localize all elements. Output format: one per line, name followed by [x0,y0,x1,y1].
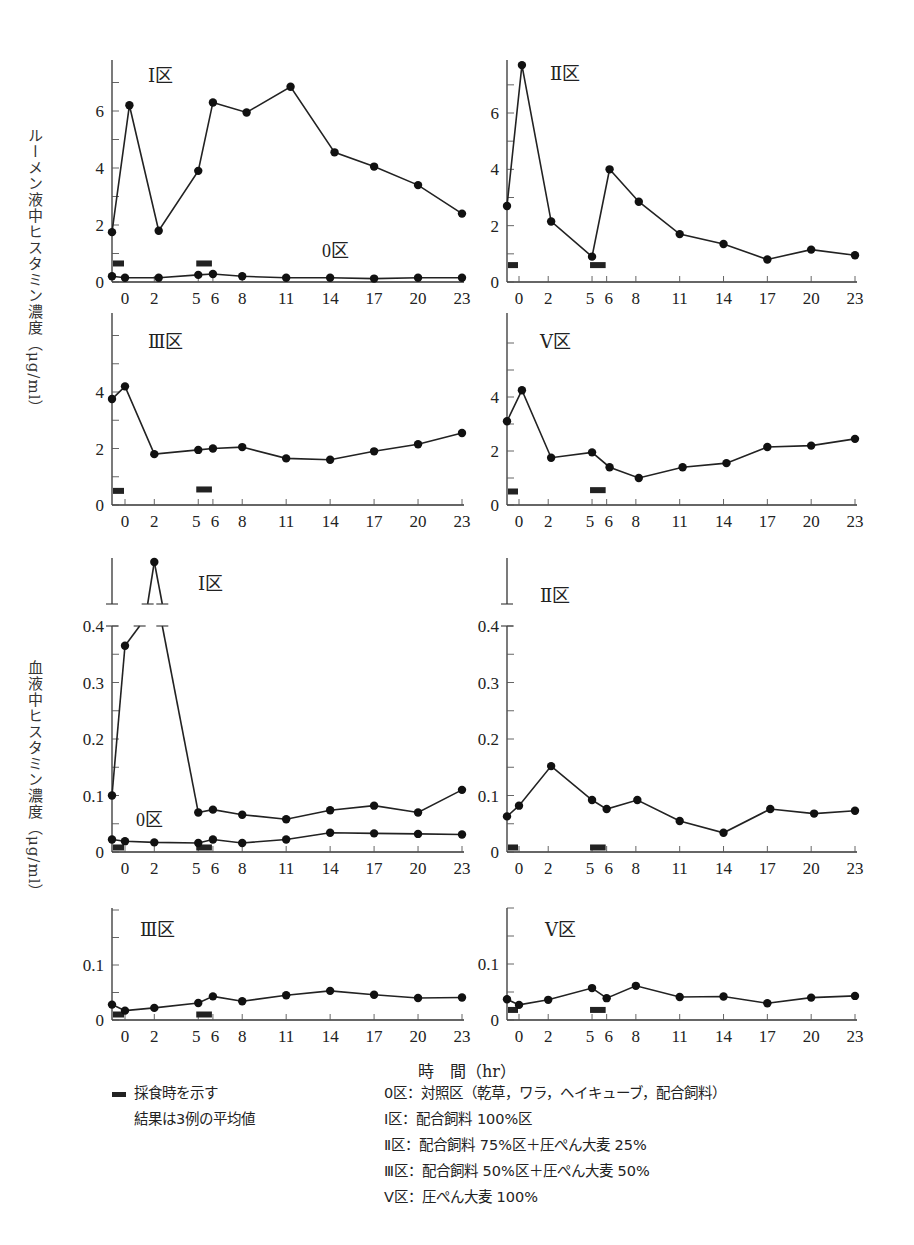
feeding-time-bar [113,260,124,266]
data-point [286,83,294,91]
data-point [763,255,771,263]
chart-panel-blood-II: 00.10.20.30.4025681114172023Ⅱ区 [478,558,864,878]
y-tick-label: 0.3 [478,674,499,693]
data-point [515,1001,523,1009]
y-tick-label: 0 [491,843,500,862]
data-point [588,796,596,804]
panel-label: Ⅲ区 [148,332,183,352]
x-tick-label: 8 [238,512,247,531]
x-tick-label: 14 [322,859,340,878]
y-tick-label: 2 [96,440,105,459]
panel-label: Ⅱ区 [540,586,570,606]
x-tick-label: 23 [454,289,471,308]
legend-left: 採食時を示す 結果は3例の平均値 [112,1080,255,1132]
data-point [851,251,859,259]
data-point [807,441,815,449]
y-tick-label: 6 [491,104,500,123]
x-tick-label: 5 [586,512,595,531]
x-tick-label: 14 [322,512,340,531]
x-tick-label: 5 [192,859,201,878]
x-tick-label: 8 [632,289,641,308]
x-tick-label: 6 [211,512,220,531]
data-point [370,447,378,455]
x-tick-label: 20 [803,289,820,308]
data-point [150,450,158,458]
data-point [121,382,129,390]
x-tick-label: 14 [715,1027,733,1046]
data-point [150,838,158,846]
feeding-time-bar [590,487,606,493]
y-tick-label: 0.2 [478,730,499,749]
x-tick-label: 14 [715,289,733,308]
legend-feeding-row: 採食時を示す [112,1080,255,1106]
chart-panel-rumen-V: 024025681114172023Ⅴ区 [491,313,864,531]
x-tick-label: 23 [847,289,864,308]
x-tick-label: 11 [672,289,688,308]
data-point [633,796,641,804]
data-point [121,1006,129,1014]
x-tick-label: 8 [632,512,641,531]
x-tick-label: 23 [454,859,471,878]
data-point [370,162,378,170]
x-tick-label: 8 [632,1027,641,1046]
y-tick-label: 0.1 [478,787,499,806]
data-point [458,830,466,838]
data-point [121,274,129,282]
x-tick-label: 0 [121,1027,130,1046]
x-tick-label: 14 [715,859,733,878]
x-tick-label: 2 [150,289,159,308]
legend-group-2: Ⅱ区：配合飼料 75%区＋圧ぺん大麦 25% [384,1132,726,1158]
y-tick-label: 6 [96,102,105,121]
x-axis-label: 時 間（hr） [418,1058,516,1082]
x-tick-label: 23 [454,512,471,531]
data-point [632,982,640,990]
data-point [370,991,378,999]
data-point [518,386,526,394]
data-point [326,456,334,464]
panel-label: Ⅴ区 [539,332,571,352]
data-point [458,786,466,794]
panel-label: Ⅱ区 [550,64,580,84]
data-point [194,839,202,847]
legend-group-3: Ⅲ区：配合飼料 50%区＋圧ぺん大麦 50% [384,1158,726,1184]
data-point [458,993,466,1001]
data-point [108,228,116,236]
x-tick-label: 11 [278,1027,294,1046]
data-point [807,245,815,253]
data-point [108,791,116,799]
feeding-time-bar [196,486,212,492]
data-point [108,395,116,403]
y-tick-label: 0.4 [83,617,105,636]
data-point [150,1004,158,1012]
x-tick-label: 5 [586,1027,595,1046]
data-point [766,805,774,813]
chart-panel-rumen-II: 0246025681114172023Ⅱ区 [491,60,864,308]
x-tick-label: 17 [366,512,384,531]
data-point [238,997,246,1005]
data-point [763,999,771,1007]
data-point [209,835,217,843]
data-point [414,274,422,282]
data-point [209,270,217,278]
data-point [155,274,163,282]
x-tick-label: 6 [604,1027,613,1046]
y-tick-label: 0.4 [478,617,500,636]
data-point [330,148,338,156]
data-point [238,811,246,819]
data-point [678,463,686,471]
data-point [851,435,859,443]
x-tick-label: 20 [410,1027,427,1046]
chart-panel-rumen-III: 024025681114172023Ⅲ区 [96,313,471,531]
data-point [503,202,511,210]
data-point [125,101,133,109]
feeding-time-bar [113,488,124,494]
x-tick-label: 0 [121,859,130,878]
data-point [588,448,596,456]
data-point [602,805,610,813]
rumen-y-axis-label: ルーメン液中ヒスタミン濃度（μg/ml） [24,128,45,416]
x-tick-label: 17 [759,1027,777,1046]
blood-y-axis-label: 血液中ヒスタミン濃度（μg/ml） [24,660,45,900]
x-tick-label: 6 [604,289,613,308]
x-tick-label: 14 [715,512,733,531]
x-tick-label: 11 [278,289,294,308]
